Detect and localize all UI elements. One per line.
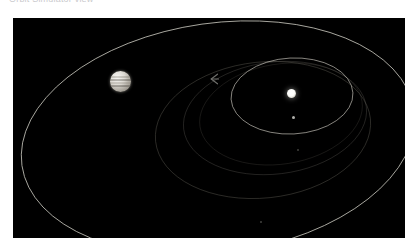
orbit-path-outer bbox=[13, 18, 405, 238]
spacecraft-icon[interactable] bbox=[206, 71, 222, 87]
caption-label: Orbit Simulator view bbox=[9, 0, 94, 5]
orbit-path-middle bbox=[148, 51, 377, 209]
sun-body[interactable] bbox=[287, 89, 296, 98]
caption-strip: Orbit Simulator view bbox=[0, 0, 419, 7]
planet-highlight bbox=[110, 71, 131, 92]
orbit-canvas bbox=[13, 18, 405, 238]
orbit-viewport[interactable] bbox=[13, 18, 405, 238]
distant-body-upper bbox=[297, 149, 299, 151]
distant-body-lower bbox=[260, 221, 262, 223]
gas-giant-body[interactable] bbox=[110, 71, 131, 92]
